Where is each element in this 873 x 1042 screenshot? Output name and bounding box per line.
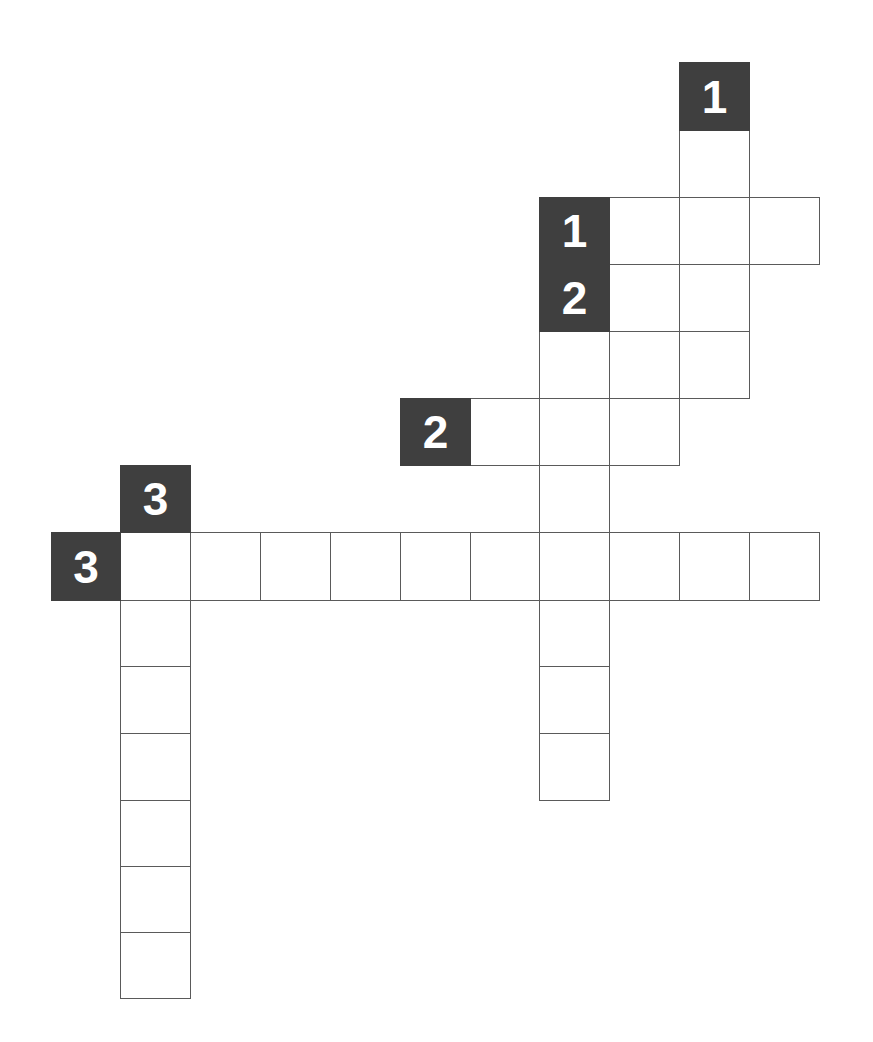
answer-cell[interactable] [539,398,610,466]
answer-cell[interactable] [539,666,610,734]
clue-number-1-across: 1 [539,197,610,265]
answer-cell[interactable] [400,532,471,601]
answer-cell[interactable] [470,398,540,466]
answer-cell[interactable] [260,532,331,601]
answer-cell[interactable] [679,130,750,198]
answer-cell[interactable] [539,532,610,601]
clue-number-1-down: 1 [679,62,750,131]
clue-number-2-down: 2 [539,264,610,332]
answer-cell[interactable] [679,264,750,332]
clue-number-3-down: 3 [120,465,191,533]
answer-cell[interactable] [539,733,610,801]
answer-cell[interactable] [609,532,680,601]
answer-cell[interactable] [679,532,750,601]
answer-cell[interactable] [609,331,680,399]
answer-cell[interactable] [120,800,191,867]
clue-number-2-across: 2 [400,398,471,466]
answer-cell[interactable] [679,331,750,399]
answer-cell[interactable] [749,197,820,265]
answer-cell[interactable] [539,331,610,399]
clue-number-3-across: 3 [51,532,121,601]
answer-cell[interactable] [609,398,680,466]
answer-cell[interactable] [120,866,191,933]
answer-cell[interactable] [120,666,191,734]
answer-cell[interactable] [120,532,191,601]
answer-cell[interactable] [609,264,680,332]
answer-cell[interactable] [330,532,401,601]
answer-cell[interactable] [609,197,680,265]
answer-cell[interactable] [120,932,191,999]
answer-cell[interactable] [120,733,191,801]
answer-cell[interactable] [679,197,750,265]
answer-cell[interactable] [470,532,540,601]
crossword-board: 112233 [0,0,873,1042]
answer-cell[interactable] [749,532,820,601]
answer-cell[interactable] [190,532,261,601]
answer-cell[interactable] [539,600,610,667]
answer-cell[interactable] [539,465,610,533]
answer-cell[interactable] [120,600,191,667]
